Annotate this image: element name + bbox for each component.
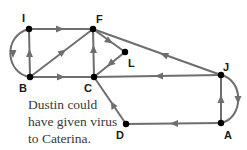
node-label-b: B	[19, 82, 27, 94]
node-label-i: I	[22, 12, 25, 24]
arrow-left-icon	[170, 120, 178, 127]
node-label-j: J	[223, 61, 229, 73]
arrow-up-icon	[218, 95, 225, 103]
arrow-up-left-icon	[160, 53, 169, 60]
node-i	[26, 26, 32, 32]
node-l	[122, 49, 128, 55]
node-label-l: L	[128, 57, 135, 69]
arrow-right-icon	[56, 26, 64, 33]
node-b	[27, 74, 33, 80]
caption-line: Dustin could	[28, 96, 117, 113]
node-label-a: A	[224, 129, 232, 141]
node-f	[90, 26, 96, 32]
edge-j-to-a-curved	[221, 75, 238, 123]
arrow-down-icon	[235, 96, 242, 104]
arrow-right-icon	[57, 74, 65, 81]
node-c	[91, 74, 97, 80]
arrow-left-icon	[155, 73, 163, 80]
caption: Dustin could have given virus to Caterin…	[28, 96, 117, 147]
caption-line: to Caterina.	[28, 130, 117, 147]
node-label-f: F	[96, 13, 103, 25]
node-d	[123, 121, 129, 127]
edge-j-to-f	[93, 29, 221, 75]
arrow-up-icon	[90, 45, 97, 53]
node-a	[218, 120, 224, 126]
arrow-up-icon	[26, 49, 33, 57]
caption-line: have given virus	[28, 113, 117, 130]
node-label-c: C	[84, 82, 92, 94]
